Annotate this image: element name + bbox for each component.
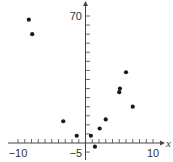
data-point bbox=[124, 70, 128, 74]
scatter-chart: −10 10 x 70 −5 bbox=[0, 0, 173, 162]
y-axis-ticks bbox=[86, 16, 91, 152]
data-point bbox=[117, 90, 121, 94]
x-axis: −10 10 x bbox=[8, 137, 171, 159]
data-point bbox=[118, 86, 122, 90]
data-point bbox=[104, 117, 108, 121]
data-point bbox=[61, 119, 65, 123]
data-point bbox=[30, 32, 34, 36]
data-point bbox=[89, 134, 93, 138]
y-tick-label-70: 70 bbox=[70, 10, 82, 22]
x-tick-label-neg10: −10 bbox=[9, 147, 28, 159]
data-point bbox=[27, 18, 31, 22]
data-points bbox=[27, 18, 135, 149]
data-point bbox=[98, 126, 102, 130]
data-point bbox=[93, 145, 97, 149]
x-axis-label: x bbox=[165, 137, 171, 149]
x-tick-label-10: 10 bbox=[147, 147, 159, 159]
data-point bbox=[131, 105, 135, 109]
y-axis: 70 −5 bbox=[69, 1, 90, 160]
data-point bbox=[75, 134, 79, 138]
y-tick-label-neg5: −5 bbox=[69, 147, 82, 159]
